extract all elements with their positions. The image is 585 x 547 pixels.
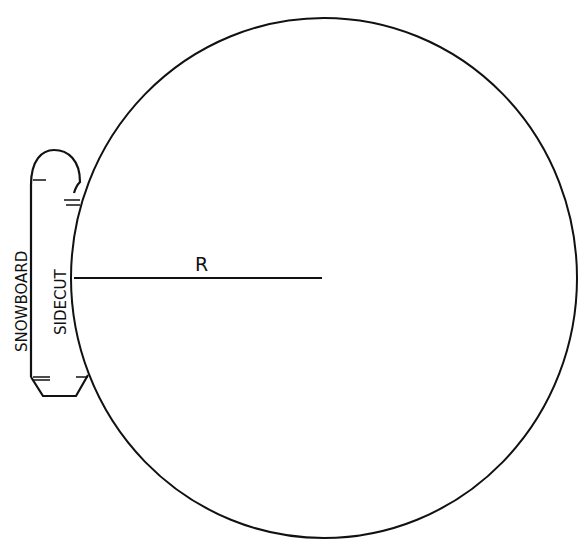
sidecut-label: SIDECUT (52, 269, 70, 335)
radius-label: R (195, 253, 208, 275)
snowboard-label: SNOWBOARD (13, 251, 31, 352)
sidecut-diagram: R SNOWBOARD SIDECUT (0, 0, 585, 547)
